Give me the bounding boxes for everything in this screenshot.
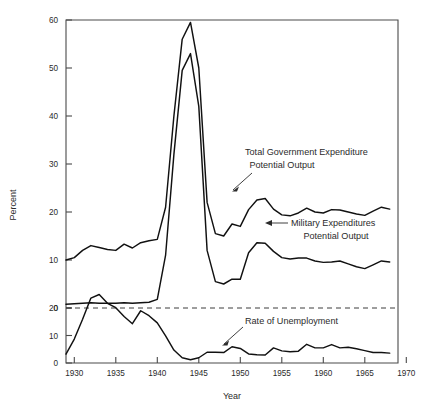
- annotation-total-government: Total Government Expenditure Potential O…: [232, 147, 368, 192]
- x-axis-ticks: 193019351940194519501955196019651970: [65, 357, 416, 378]
- y-tick-upper: 60: [49, 16, 59, 25]
- y-tick-lower: 20: [49, 304, 59, 313]
- annotation-unemployment-label: Rate of Unemployment: [245, 316, 338, 326]
- annotation-military-line1: Military Expenditures: [291, 218, 376, 228]
- annotation-unemployment-arrow-icon: [222, 341, 229, 346]
- series-line: [66, 54, 390, 305]
- series-lines: [66, 22, 390, 359]
- series-line: [66, 295, 390, 360]
- x-tick: 1945: [190, 369, 209, 378]
- chart-svg: 0102030405060 01020 19301935194019451950…: [0, 0, 425, 410]
- y-tick-lower: 10: [49, 332, 59, 341]
- annotation-total-leader: [233, 173, 252, 190]
- y-tick-upper: 50: [49, 64, 59, 73]
- annotation-unemployment: Rate of Unemployment: [222, 316, 338, 346]
- x-tick: 1960: [314, 369, 333, 378]
- y-tick-upper: 10: [49, 256, 59, 265]
- x-tick: 1965: [356, 369, 375, 378]
- annotation-unemployment-leader: [224, 327, 243, 344]
- y-axis-lower-ticks: 01020: [49, 304, 72, 368]
- y-tick-upper: 20: [49, 208, 59, 217]
- annotation-total-line1: Total Government Expenditure: [245, 147, 368, 157]
- chart-figure: 0102030405060 01020 19301935194019451950…: [0, 0, 425, 410]
- annotation-military: Military Expenditures Potential Output: [265, 218, 376, 241]
- annotation-military-arrow-icon: [265, 220, 272, 226]
- x-tick: 1950: [231, 369, 250, 378]
- y-tick-lower: 0: [53, 359, 58, 368]
- y-tick-upper: 40: [49, 112, 59, 121]
- x-tick: 1935: [107, 369, 126, 378]
- y-axis-label: Percent: [8, 189, 18, 221]
- x-tick: 1940: [148, 369, 167, 378]
- x-tick: 1970: [397, 369, 416, 378]
- annotation-total-line2: Potential Output: [249, 160, 315, 170]
- x-tick: 1930: [65, 369, 84, 378]
- annotation-military-line2: Potential Output: [303, 231, 369, 241]
- x-tick: 1955: [273, 369, 292, 378]
- y-axis-upper-ticks: 0102030405060: [49, 16, 72, 313]
- x-axis-label: Year: [223, 391, 241, 401]
- y-tick-upper: 30: [49, 160, 59, 169]
